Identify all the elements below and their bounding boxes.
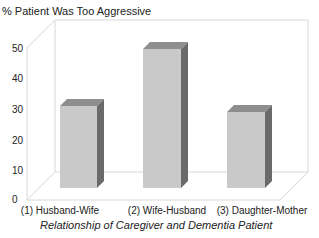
x-label-daughter-mother: (3) Daughter-Mother: [206, 205, 318, 216]
x-label-husband-wife: (1) Husband-Wife: [10, 205, 110, 216]
bar-husband-wife: [60, 99, 104, 188]
bar-daughter-mother: [227, 105, 272, 188]
plot-area: [0, 0, 319, 238]
bar-wife-husband: [143, 42, 188, 188]
x-axis-title: Relationship of Caregiver and Dementia P…: [40, 219, 272, 231]
x-label-wife-husband: (2) Wife-Husband: [117, 205, 217, 216]
